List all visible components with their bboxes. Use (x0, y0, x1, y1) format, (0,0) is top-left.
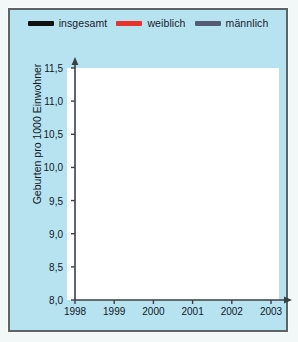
legend-swatch-weiblich (116, 21, 142, 26)
legend-swatch-insgesamt (28, 21, 54, 26)
chart-figure: insgesamt weiblich männlich Geburten pro… (8, 8, 288, 332)
x-axis-tick-label: 2000 (142, 306, 164, 317)
y-axis-tick-label: 10,0 (44, 162, 63, 173)
x-axis-tick-labels: 199819992000200120022003 (67, 306, 279, 322)
plot-area (67, 68, 279, 300)
x-axis-arrow (284, 297, 292, 304)
legend-label-maennlich: männlich (226, 17, 269, 29)
x-axis-tick-label: 1998 (64, 306, 86, 317)
y-axis-tick-label: 9,0 (49, 228, 63, 239)
y-axis-tick-label: 8,0 (49, 295, 63, 306)
y-axis-arrow (72, 57, 79, 65)
y-axis-tick-label: 8,5 (49, 261, 63, 272)
y-axis-tick-label: 9,5 (49, 195, 63, 206)
x-axis-tick-label: 2002 (221, 306, 243, 317)
y-axis-tick-label: 11,0 (44, 96, 63, 107)
x-axis-tick-label: 1999 (103, 306, 125, 317)
legend-label-insgesamt: insgesamt (59, 17, 108, 29)
x-axis-tick-label: 2001 (181, 306, 203, 317)
legend-item-insgesamt: insgesamt (28, 17, 108, 29)
plot-wrapper (67, 68, 279, 300)
x-axis-tick-label: 2003 (260, 306, 282, 317)
y-axis-tick-labels: 8,08,59,09,510,010,511,011,5 (28, 68, 63, 300)
legend-label-weiblich: weiblich (147, 17, 185, 29)
y-axis-tick-label: 11,5 (44, 63, 63, 74)
chart-legend: insgesamt weiblich männlich (10, 17, 286, 29)
legend-swatch-maennlich (195, 21, 221, 26)
legend-item-maennlich: männlich (195, 17, 269, 29)
legend-item-weiblich: weiblich (116, 17, 185, 29)
y-axis-tick-label: 10,5 (44, 129, 63, 140)
